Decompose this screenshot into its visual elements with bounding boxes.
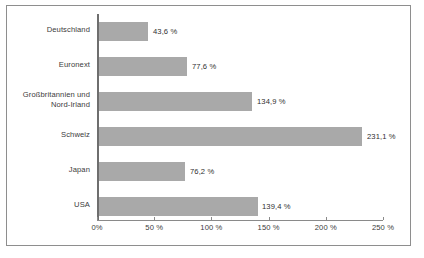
plot-area: Deutschland Euronext Großbritannien und … bbox=[7, 6, 410, 245]
tick-label-150: 150 % bbox=[258, 223, 280, 232]
tick-mark-150 bbox=[269, 217, 270, 220]
tick-mark-200 bbox=[326, 217, 327, 220]
tick-label-200: 200 % bbox=[315, 223, 337, 232]
tick-label-250: 250 % bbox=[372, 223, 394, 232]
bar-value-japan: 76,2 % bbox=[190, 167, 214, 176]
bar-schweiz bbox=[98, 127, 362, 146]
bar-grossbritannien-nordirland bbox=[98, 92, 252, 111]
category-axis-line bbox=[97, 220, 383, 221]
tick-mark-250 bbox=[383, 217, 384, 220]
tick-mark-100 bbox=[211, 217, 212, 220]
value-axis-line bbox=[97, 14, 99, 221]
bar-euronext bbox=[98, 57, 187, 76]
category-label-japan: Japan bbox=[0, 165, 90, 175]
category-label-euronext: Euronext bbox=[0, 60, 90, 70]
tick-label-50: 50 % bbox=[145, 223, 163, 232]
category-label-schweiz: Schweiz bbox=[0, 130, 90, 140]
tick-label-100: 100 % bbox=[200, 223, 222, 232]
chart-frame: Deutschland Euronext Großbritannien und … bbox=[6, 5, 411, 246]
tick-mark-0 bbox=[97, 217, 98, 220]
bar-value-grossbritannien-nordirland: 134,9 % bbox=[257, 97, 286, 106]
tick-mark-50 bbox=[154, 217, 155, 220]
tick-label-0: 0% bbox=[91, 223, 102, 232]
bar-deutschland bbox=[98, 22, 148, 41]
bar-japan bbox=[98, 162, 185, 181]
bar-value-deutschland: 43,6 % bbox=[153, 27, 177, 36]
bar-value-usa: 139,4 % bbox=[262, 202, 291, 211]
category-label-usa: USA bbox=[0, 200, 90, 210]
bar-value-euronext: 77,6 % bbox=[192, 62, 216, 71]
category-label-grossbritannien-nordirland: Großbritannien und Nord-Irland bbox=[0, 90, 90, 109]
bar-value-schweiz: 231,1 % bbox=[367, 132, 396, 141]
category-label-deutschland: Deutschland bbox=[0, 25, 90, 35]
bar-usa bbox=[98, 197, 258, 216]
